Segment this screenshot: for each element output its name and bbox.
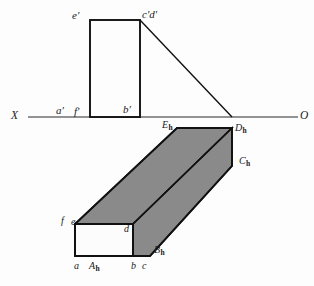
- label-c: c: [142, 261, 146, 271]
- label-a-prime: a′: [56, 105, 64, 116]
- label-f: f: [61, 216, 64, 226]
- label-eh: Eh: [162, 120, 172, 130]
- label-ch-letter: C: [239, 155, 246, 166]
- label-ah: Ah: [89, 261, 99, 271]
- label-eh-subscript: h: [168, 123, 172, 132]
- label-dh-subscript: h: [243, 126, 247, 135]
- label-bh: Bh: [154, 245, 164, 255]
- label-dh-letter: D: [235, 122, 242, 133]
- axis-label-o: O: [300, 110, 308, 122]
- label-e: e: [71, 217, 75, 227]
- projector-line-cd-to-dh: [140, 20, 232, 117]
- label-dh: Dh: [235, 123, 246, 133]
- label-b-prime: b′: [123, 104, 131, 115]
- label-e-prime: e′: [72, 10, 79, 21]
- label-b: b: [131, 261, 136, 271]
- label-a: a: [74, 261, 79, 271]
- label-c-prime-d-prime: c′d′: [142, 9, 157, 20]
- label-d: d: [124, 224, 129, 234]
- label-ah-subscript: h: [95, 264, 99, 273]
- front-view-rectangle: [90, 20, 140, 117]
- label-ch: Ch: [239, 156, 250, 166]
- label-f-prime: f′: [74, 106, 79, 117]
- axis-label-x: X: [11, 110, 18, 122]
- label-ch-subscript: h: [246, 159, 250, 168]
- descriptive-geometry-figure: X O e′ c′d′ a′ f′ b′ Eh Dh Ch Bh Ah f e …: [0, 0, 314, 286]
- label-bh-subscript: h: [160, 248, 164, 257]
